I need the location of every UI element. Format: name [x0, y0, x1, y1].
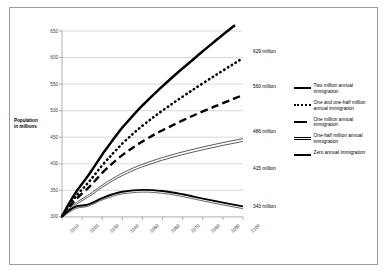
legend-label-one-and-one-half-million-line1: One and one-half million: [314, 100, 366, 105]
endpoint-label-one-and-one-half-million: 560 million: [253, 84, 276, 89]
legend-label-one-and-one-half-million: One and one-half million annual immigrat…: [314, 100, 366, 112]
legend-item-zero-immigration: Zero annual immigration: [294, 150, 382, 159]
legend-label-one-million-line2: immigration: [314, 122, 339, 127]
legend-key-dashed-icon: [294, 117, 311, 126]
legend-label-two-million-line2: immigration: [314, 89, 339, 94]
plot-area: Population in millions 650 600 550 500 4…: [0, 0, 389, 276]
legend-label-two-million: Two million annual immigration: [314, 83, 353, 95]
series-line-one-million-immigration: [62, 95, 243, 216]
legend-label-two-million-line1: Two million annual: [314, 83, 353, 88]
legend-item-one-million: One million annual immigration: [294, 117, 382, 129]
endpoint-label-one-half-million: 415 million: [253, 166, 276, 171]
legend-key-double-line-icon: [294, 133, 311, 142]
chart-legend: Two million annual immigration One and o…: [294, 83, 382, 164]
legend-item-one-and-one-half-million: One and one-half million annual immigrat…: [294, 100, 382, 112]
legend-key-thick-solid-icon: [294, 83, 311, 92]
legend-item-two-million: Two million annual immigration: [294, 83, 382, 95]
endpoint-label-two-million: 629 million: [253, 49, 276, 54]
legend-label-one-million-line1: One million annual: [314, 117, 354, 122]
endpoint-label-one-million: 486 million: [253, 129, 276, 134]
legend-label-one-half-million-line1: One-half million annual: [314, 133, 363, 138]
chart-figure: Population in millions 650 600 550 500 4…: [0, 0, 389, 276]
legend-label-one-million: One million annual immigration: [314, 117, 354, 129]
legend-label-one-half-million-line2: immigration: [314, 139, 339, 144]
y-axis-ticks: [59, 31, 62, 217]
legend-label-one-and-one-half-million-line2: annual immigration: [314, 106, 355, 111]
endpoint-label-zero-immigration: 343 million: [253, 204, 276, 209]
legend-key-thick-solid-zero-icon: [294, 150, 311, 159]
gridlines: [62, 31, 243, 190]
legend-label-zero-immigration: Zero annual immigration: [314, 150, 366, 156]
legend-key-dotted-icon: [294, 100, 311, 109]
series-line-zero-annual-immigration: [62, 190, 243, 216]
x-axis-ticks: [62, 217, 243, 220]
legend-label-one-half-million: One-half million annual immigration: [314, 133, 363, 145]
legend-item-one-half-million: One-half million annual immigration: [294, 133, 382, 145]
